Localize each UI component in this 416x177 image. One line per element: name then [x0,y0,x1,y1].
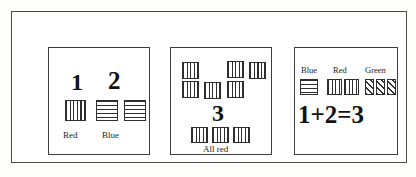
all-red-total-panel: 3 All red [170,47,272,155]
green-swatch-tile [387,79,396,95]
figure-canvas: 1 2 Red Blue 3 All red [0,0,416,177]
bottom-red-tile [191,127,208,143]
bottom-red-tile [233,127,250,143]
scattered-red-tile [204,82,221,99]
addition-equation: 1+2=3 [298,102,364,127]
outer-frame: 1 2 Red Blue 3 All red [11,11,407,163]
count-by-color-panel: 1 2 Red Blue [48,47,150,155]
blue-square-tile [96,100,118,121]
green-swatch-tile [365,79,374,95]
red-swatch-tile [344,79,359,95]
red-swatch-tile [327,79,342,95]
scattered-red-tile [249,62,266,79]
scattered-red-tile [227,81,244,98]
caption-all-red: All red [203,145,228,154]
bottom-red-tile [212,127,229,143]
addition-equation-panel: Blue Red Green 1+2=3 [294,47,398,155]
blue-swatch-tile [300,79,318,95]
caption-red: Red [63,131,78,140]
swatch-label-green: Green [365,66,386,75]
scattered-red-tile [227,61,244,78]
green-swatch-tile [376,79,385,95]
swatch-label-blue: Blue [301,66,317,75]
caption-blue: Blue [102,131,119,140]
numeral-three: 3 [212,101,224,125]
scattered-red-tile [182,62,199,79]
blue-square-tile [124,100,146,121]
red-square-tile [65,100,86,121]
swatch-label-red: Red [333,66,347,75]
numeral-two: 2 [108,68,121,93]
scattered-red-tile [182,81,199,98]
numeral-one: 1 [71,70,83,94]
